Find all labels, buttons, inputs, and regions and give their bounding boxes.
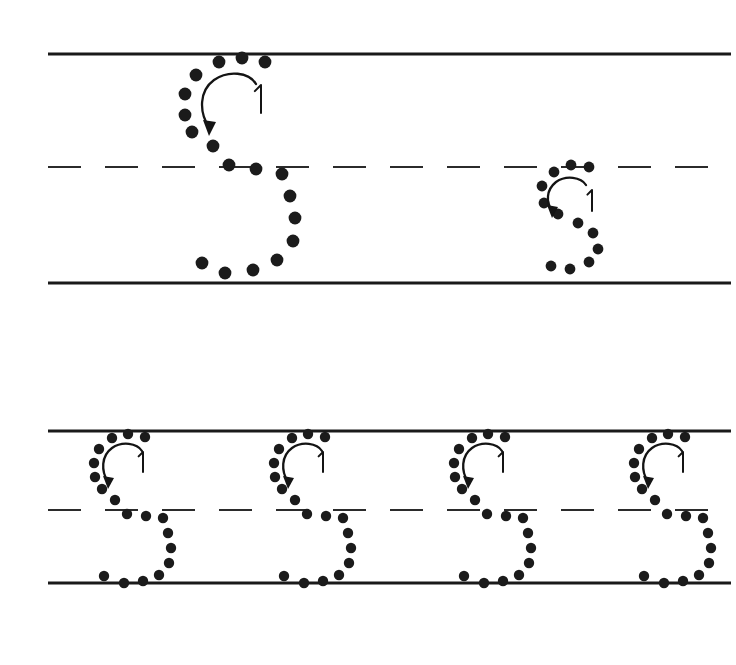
trace-dot (90, 472, 100, 482)
trace-dot (164, 558, 174, 568)
trace-dot (659, 578, 669, 588)
trace-dot (122, 509, 132, 519)
worksheet-canvas (0, 0, 736, 665)
trace-dot (154, 570, 164, 580)
trace-dot (663, 429, 673, 439)
page-background (0, 0, 736, 665)
trace-dot (470, 495, 480, 505)
trace-dot (163, 528, 173, 538)
trace-dot (584, 162, 595, 173)
trace-dot (467, 433, 477, 443)
trace-dot (186, 126, 199, 139)
trace-dot (457, 484, 467, 494)
trace-dot (179, 109, 192, 122)
trace-dot (236, 52, 249, 65)
trace-dot (524, 558, 534, 568)
trace-dot (107, 433, 117, 443)
trace-dot (321, 511, 331, 521)
trace-dot (270, 472, 280, 482)
trace-dot (703, 528, 713, 538)
trace-dot (302, 509, 312, 519)
trace-dot (526, 543, 536, 553)
trace-dot (483, 429, 493, 439)
trace-dot (500, 432, 510, 442)
trace-dot (537, 181, 548, 192)
trace-dot (346, 543, 356, 553)
trace-dot (482, 509, 492, 519)
trace-dot (290, 495, 300, 505)
trace-dot (119, 578, 129, 588)
trace-dot (89, 458, 99, 468)
trace-dot (284, 190, 297, 203)
trace-dot (138, 576, 148, 586)
trace-dot (250, 163, 263, 176)
tracing-worksheet (0, 0, 736, 665)
trace-dot (523, 528, 533, 538)
trace-dot (514, 570, 524, 580)
trace-dot (584, 257, 595, 268)
trace-dot (647, 433, 657, 443)
trace-dot (698, 513, 708, 523)
trace-dot (573, 218, 584, 229)
trace-dot (629, 458, 639, 468)
trace-dot (566, 160, 577, 171)
trace-dot (179, 88, 192, 101)
trace-dot (207, 140, 220, 153)
trace-dot (140, 432, 150, 442)
trace-dot (338, 513, 348, 523)
trace-dot (479, 578, 489, 588)
trace-dot (97, 484, 107, 494)
trace-dot (223, 159, 236, 172)
trace-dot (110, 495, 120, 505)
trace-dot (141, 511, 151, 521)
trace-dot (219, 267, 232, 280)
trace-dot (276, 168, 289, 181)
trace-dot (271, 254, 284, 267)
trace-dot (593, 244, 604, 255)
trace-dot (459, 571, 469, 581)
trace-dot (694, 570, 704, 580)
trace-dot (287, 235, 300, 248)
trace-dot (269, 458, 279, 468)
trace-dot (678, 576, 688, 586)
trace-dot (274, 444, 284, 454)
trace-dot (681, 511, 691, 521)
trace-dot (650, 495, 660, 505)
trace-dot (247, 264, 260, 277)
trace-dot (196, 257, 209, 270)
trace-dot (289, 212, 302, 225)
trace-dot (213, 56, 226, 69)
trace-dot (94, 444, 104, 454)
trace-dot (99, 571, 109, 581)
trace-dot (662, 509, 672, 519)
trace-dot (449, 458, 459, 468)
trace-dot (320, 432, 330, 442)
trace-dot (588, 228, 599, 239)
trace-dot (123, 429, 133, 439)
trace-dot (454, 444, 464, 454)
trace-dot (158, 513, 168, 523)
trace-dot (303, 429, 313, 439)
trace-dot (501, 511, 511, 521)
trace-dot (450, 472, 460, 482)
trace-dot (299, 578, 309, 588)
trace-dot (279, 571, 289, 581)
trace-dot (318, 576, 328, 586)
trace-dot (190, 69, 203, 82)
trace-dot (549, 167, 560, 178)
trace-dot (565, 264, 576, 275)
trace-dot (334, 570, 344, 580)
trace-dot (259, 56, 272, 69)
trace-dot (343, 528, 353, 538)
trace-dot (634, 444, 644, 454)
trace-dot (277, 484, 287, 494)
trace-dot (637, 484, 647, 494)
trace-dot (680, 432, 690, 442)
trace-dot (706, 543, 716, 553)
trace-dot (498, 576, 508, 586)
trace-dot (704, 558, 714, 568)
trace-dot (344, 558, 354, 568)
trace-dot (287, 433, 297, 443)
trace-dot (630, 472, 640, 482)
trace-dot (166, 543, 176, 553)
